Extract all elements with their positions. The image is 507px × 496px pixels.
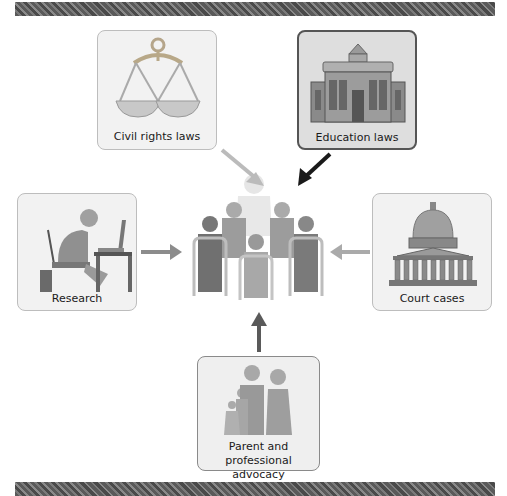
arrows-layer bbox=[0, 0, 507, 496]
decorative-bottom-band bbox=[15, 482, 495, 496]
arrow-court-cases bbox=[330, 244, 370, 260]
arrow-civil-rights bbox=[222, 150, 264, 186]
arrow-research bbox=[141, 244, 182, 260]
arrow-parent-advocacy bbox=[251, 312, 267, 352]
arrow-education-laws bbox=[298, 154, 330, 186]
